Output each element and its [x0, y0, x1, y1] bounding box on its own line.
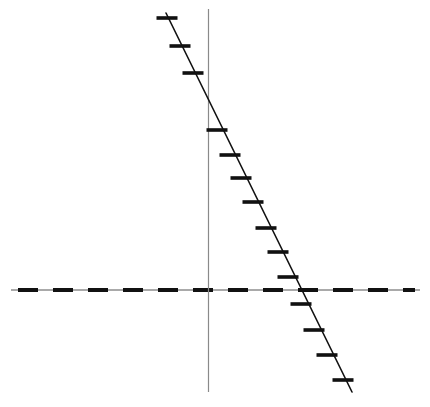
data-point-marker — [268, 250, 289, 254]
plot-background — [0, 0, 430, 407]
data-point-marker — [304, 328, 325, 332]
plot-canvas — [0, 0, 430, 407]
data-point-marker — [333, 378, 354, 382]
plot-svg — [0, 0, 430, 407]
data-point-marker — [291, 302, 312, 306]
data-point-marker — [278, 275, 299, 279]
data-point-marker — [183, 71, 204, 75]
data-point-marker — [317, 353, 338, 357]
data-point-marker — [243, 200, 264, 204]
data-point-marker — [157, 16, 178, 20]
data-point-marker — [220, 153, 241, 157]
data-point-marker — [207, 128, 228, 132]
data-point-marker — [256, 226, 277, 230]
data-point-marker — [170, 44, 191, 48]
data-point-marker — [231, 176, 252, 180]
